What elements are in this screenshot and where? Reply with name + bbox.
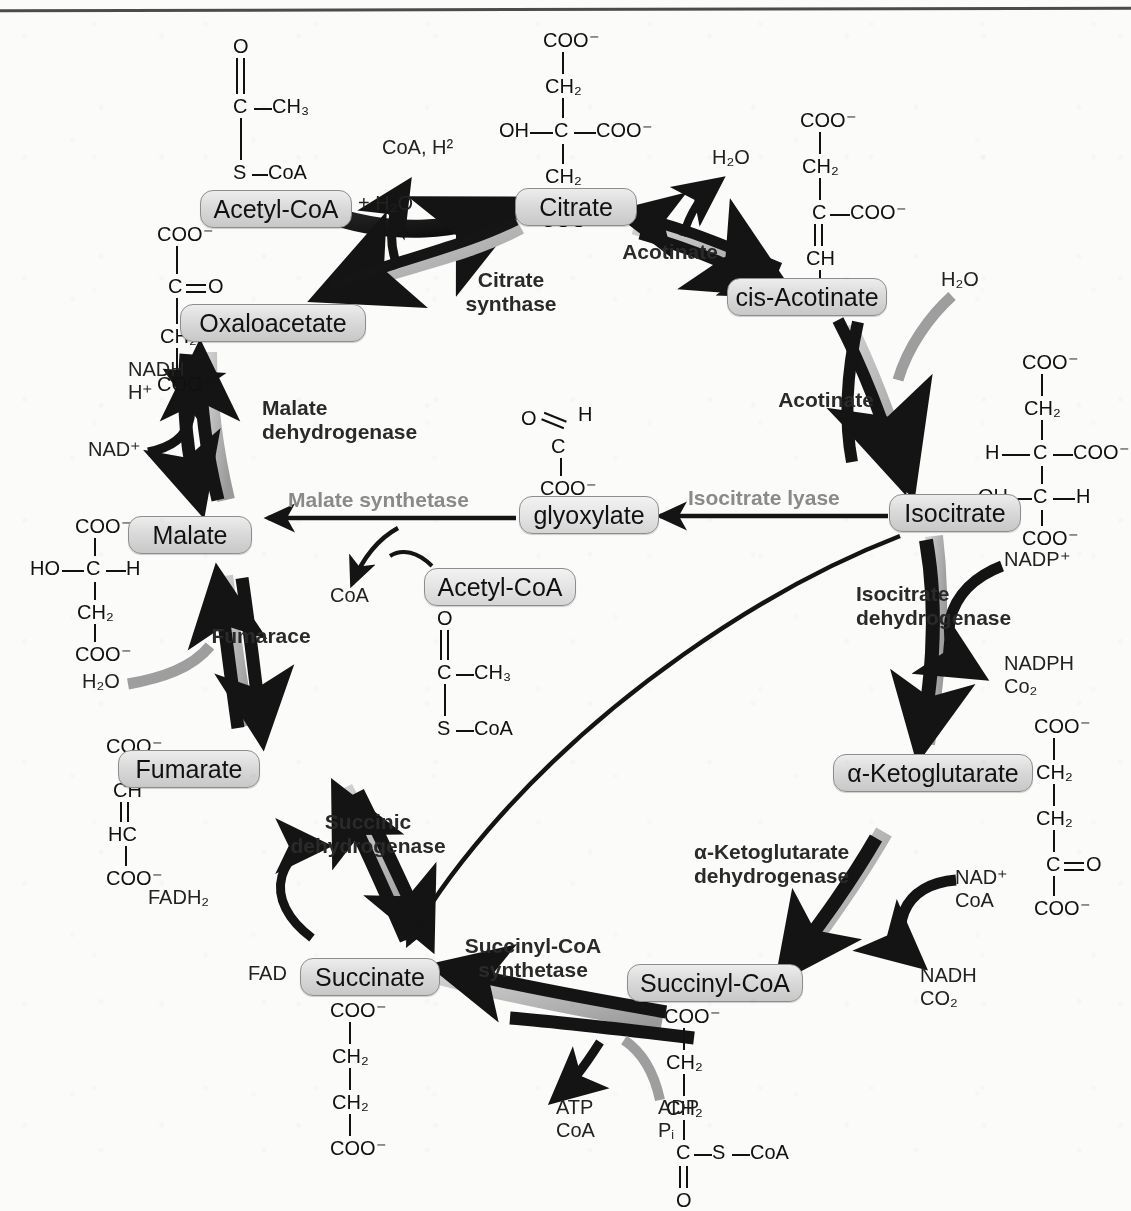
figure-canvas: O C CH₃ S CoA COO⁻ C O CH₂ COO⁻ COO⁻ CH₂… xyxy=(0,0,1131,1211)
arrow-h2o-in-isocitrate xyxy=(898,296,952,380)
cofactor-nadp-in: NADP⁺ xyxy=(1004,548,1071,571)
enzyme-isocitrate-lyase: Isocitrate lyase xyxy=(688,486,868,510)
enzyme-isocitrate-dehydrogenase: Isocitrate dehydrogenase xyxy=(856,582,1046,629)
cofactor-plus-h2o-acetyl: + H₂O xyxy=(358,192,413,215)
metabolite-succinate[interactable]: Succinate xyxy=(300,958,440,996)
arrow-fad-to-fadh2 xyxy=(280,846,322,938)
metabolite-oxaloacetate[interactable]: Oxaloacetate xyxy=(180,304,366,342)
cofactor-nadh-co2-out: NADH CO₂ xyxy=(920,964,977,1010)
metabolite-malate[interactable]: Malate xyxy=(128,516,252,554)
metabolite-acetyl-coa-top[interactable]: Acetyl-CoA xyxy=(200,190,352,228)
cofactor-fadh2-out: FADH₂ xyxy=(148,886,209,909)
metabolite-cis-acotinate[interactable]: cis-Acotinate xyxy=(727,278,887,316)
metabolite-citrate[interactable]: Citrate xyxy=(515,188,637,226)
cofactor-h2o-acotinate-in: H₂O xyxy=(941,268,979,291)
arrow-nad-coa-to-nadh-co2 xyxy=(901,880,956,962)
cofactor-coa-h-release: CoA, H² xyxy=(382,136,453,159)
arrow-acetylcoa-into-synthetase xyxy=(390,552,432,566)
cofactor-nadph-co2-out: NADPH Co₂ xyxy=(1004,652,1074,698)
arrow-h2o-in-fumarace xyxy=(128,646,210,684)
metabolite-acetyl-coa-center[interactable]: Acetyl-CoA xyxy=(424,568,576,606)
scan-bleedthrough xyxy=(250,404,255,426)
cofactor-fad-in: FAD xyxy=(248,962,287,985)
enzyme-succinic-dehydrogenase: Succinic dehydrogenase xyxy=(268,810,468,857)
enzyme-malate-synthetase: Malate synthetase xyxy=(288,488,500,512)
cofactor-adp-pi-in: ADP Pi xyxy=(658,1096,699,1143)
cofactor-h2o-citrate-out: H₂O xyxy=(712,146,750,169)
metabolite-fumarate[interactable]: Fumarate xyxy=(118,750,260,788)
arrow-idh-dark xyxy=(920,540,933,748)
enzyme-citrate-synthase: Citrate synthase xyxy=(436,268,586,315)
metabolite-succinyl-coa[interactable]: Succinyl-CoA xyxy=(627,964,803,1002)
metabolite-alpha-ketoglutarate[interactable]: α-Ketoglutarate xyxy=(833,754,1033,792)
enzyme-alpha-kg-dehydrogenase: α-Ketoglutarate dehydrogenase xyxy=(694,840,916,887)
cofactor-nad-coa-in: NAD⁺ CoA xyxy=(955,866,1008,912)
enzyme-malate-dehydrogenase: Malate dehydrogenase xyxy=(262,396,448,443)
cofactor-nadh-h-out: NADH H⁺ xyxy=(128,358,185,404)
metabolite-glyoxylate[interactable]: glyoxylate xyxy=(519,496,659,534)
cofactor-atp-coa-out: ATP CoA xyxy=(556,1096,595,1142)
enzyme-fumarace: Fumarace xyxy=(196,624,326,648)
cofactor-h2o-fumarace-in: H₂O xyxy=(82,670,120,693)
arrow-adp-pi-in xyxy=(624,1040,660,1100)
enzyme-acotinate-1: Acotinate xyxy=(610,240,730,264)
arrow-atp-coa-release xyxy=(556,1042,600,1098)
enzyme-acotinate-2: Acotinate xyxy=(766,388,886,412)
enzyme-succinyl-coa-synthetase: Succinyl-CoA synthetase xyxy=(438,934,628,981)
metabolite-isocitrate[interactable]: Isocitrate xyxy=(889,494,1021,532)
cofactor-nad-in-mdh: NAD⁺ xyxy=(88,438,141,461)
cofactor-coa-out-synthetase: CoA xyxy=(330,584,369,607)
arrow-h2o-release-acotinate xyxy=(683,182,718,236)
